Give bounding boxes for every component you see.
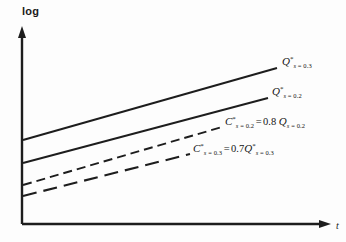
label-rhs-sub-val: 0.2	[297, 122, 305, 129]
label-equals: =	[254, 116, 263, 127]
label-sub-eq: =	[238, 122, 245, 129]
x-axis-label: t	[336, 220, 339, 231]
label-subscript: s = 0.3	[204, 149, 222, 156]
x-axis	[22, 220, 331, 228]
label-sub-val: 0.2	[293, 92, 301, 99]
y-axis-label: log	[22, 5, 39, 17]
label-rhs-symbol: Q	[279, 115, 287, 127]
label-subscript: s = 0.3	[293, 62, 311, 69]
label-sub-val: 0.2	[246, 122, 254, 129]
label-coefficient: 0.7	[231, 143, 244, 154]
label-rhs-sub-eq: =	[258, 149, 265, 156]
label-rhs-sub-eq: =	[289, 122, 296, 129]
curve-label-c-s02: C*s = 0.2=0.8 Qs = 0.2	[225, 116, 305, 129]
label-subscript: s = 0.2	[283, 92, 301, 99]
label-rhs-sub-val: 0.3	[266, 149, 274, 156]
label-sub-eq: =	[206, 149, 213, 156]
curve-label-q-s02: Q*s = 0.2	[272, 86, 302, 99]
figure-canvas: log t Q*s = 0.3 Q*s = 0.2 C*s = 0.2=0.8 …	[0, 0, 346, 242]
y-axis	[18, 26, 26, 224]
label-coefficient: 0.8	[263, 116, 276, 127]
curve-label-c-s03: C*s = 0.3=0.7Q*s = 0.3	[193, 143, 274, 156]
label-rhs-symbol: Q	[244, 142, 252, 154]
curve-label-q-s03: Q*s = 0.3	[282, 56, 312, 69]
label-sub-val: 0.3	[214, 149, 222, 156]
label-rhs-subscript: s = 0.2	[287, 122, 305, 129]
label-equals: =	[222, 143, 231, 154]
label-symbol: Q	[282, 55, 290, 67]
label-rhs-subscript: s = 0.3	[256, 149, 274, 156]
label-subscript: s = 0.2	[236, 122, 254, 129]
label-symbol: Q	[272, 85, 280, 97]
label-sub-val: 0.3	[303, 62, 311, 69]
